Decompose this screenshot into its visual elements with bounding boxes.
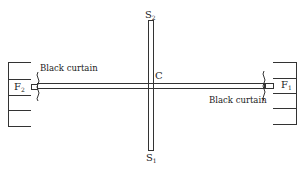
label-s2: S2 (145, 9, 156, 21)
label-c: C (155, 70, 163, 81)
apparatus-diagram: S2 S1 C F2 F1 Black curtain Black curtai… (0, 0, 303, 169)
label-s1: S1 (146, 152, 157, 164)
label-curtain-right: Black curtain (209, 95, 267, 105)
label-curtain-left: Black curtain (40, 63, 98, 73)
label-f2: F2 (14, 81, 25, 93)
right-stand (273, 62, 297, 125)
horizontal-beam (38, 84, 265, 89)
label-f1: F1 (281, 79, 292, 91)
left-stand (8, 62, 31, 127)
right-end-box (266, 84, 274, 89)
